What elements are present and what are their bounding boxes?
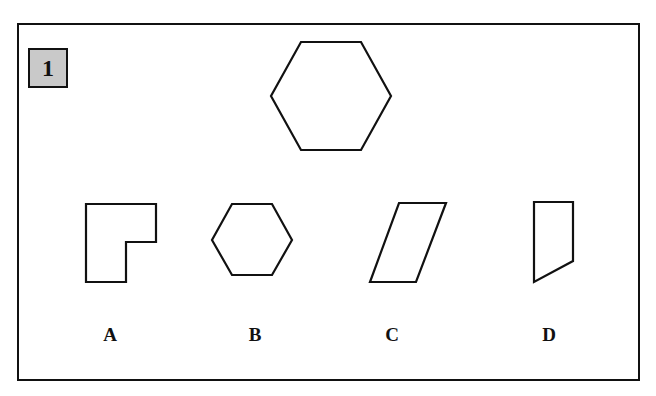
option-b-label[interactable]: B	[249, 324, 262, 346]
option-d-label[interactable]: D	[542, 324, 556, 346]
option-b-shape[interactable]	[212, 204, 292, 275]
target-hexagon-shape	[271, 42, 391, 150]
option-a-label[interactable]: A	[103, 324, 117, 346]
option-a-shape[interactable]	[86, 204, 156, 282]
shapes-canvas	[0, 0, 656, 396]
option-c-label[interactable]: C	[385, 324, 399, 346]
option-d-shape[interactable]	[534, 202, 573, 282]
option-c-shape[interactable]	[370, 203, 446, 282]
